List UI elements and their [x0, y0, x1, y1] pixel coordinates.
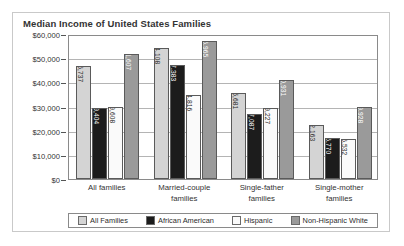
bar[interactable]: $16,532: [341, 139, 356, 179]
y-axis-tick-mark: [61, 180, 66, 181]
x-axis-category-label-line: Single-father: [223, 183, 301, 194]
legend-item[interactable]: Non-Hispanic White: [291, 216, 368, 225]
bar[interactable]: $29,404: [92, 108, 107, 179]
bar-value-label: $22,163: [309, 125, 316, 141]
plot-area: $46,737$29,404$29,608$51,607$54,108$47,3…: [68, 35, 378, 180]
bar-value-label: $29,608: [109, 107, 116, 123]
bar[interactable]: $29,608: [108, 107, 123, 179]
bar-value-label: $27,087: [248, 114, 255, 130]
x-axis-category-label: Single-motherfamilies: [301, 183, 379, 204]
bar[interactable]: $16,770: [325, 138, 340, 179]
y-axis-tick-label: $30,000: [33, 103, 60, 112]
legend-swatch: [291, 216, 300, 225]
bar-value-label: $46,737: [77, 66, 84, 82]
bar[interactable]: $47,383: [170, 65, 185, 180]
chart-card: Median Income of United States Families …: [12, 12, 390, 232]
bar-value-label: $16,770: [325, 138, 332, 154]
y-axis-tick-label: $10,000: [33, 151, 60, 160]
x-axis-category-labels: All familiesMarried-couplefamiliesSingle…: [68, 183, 378, 209]
legend-label: African American: [158, 216, 214, 225]
x-axis-category-label-line: All families: [68, 183, 146, 194]
x-axis-category-label: Single-fatherfamilies: [223, 183, 301, 204]
x-axis-category-label-line: families: [146, 194, 224, 205]
x-axis-category-label-line: Married-couple: [146, 183, 224, 194]
legend-swatch: [146, 216, 155, 225]
bar-group: $22,163$16,770$16,532$29,928: [302, 36, 380, 179]
bar[interactable]: $35,681: [231, 93, 246, 179]
bar[interactable]: $27,087: [247, 114, 262, 179]
y-axis-tick-mark: [61, 108, 66, 109]
bar[interactable]: $34,816: [186, 95, 201, 179]
bar-value-label: $51,607: [125, 54, 132, 70]
legend-label: All Families: [90, 216, 128, 225]
bar-value-label: $16,532: [341, 139, 348, 155]
bar-value-label: $40,931: [280, 80, 287, 96]
bar-group: $46,737$29,404$29,608$51,607: [69, 36, 147, 179]
bar[interactable]: $29,928: [357, 107, 372, 179]
chart-title: Median Income of United States Families: [23, 18, 211, 29]
bar-value-label: $56,965: [202, 41, 209, 57]
bar-value-label: $29,928: [357, 107, 364, 123]
bar[interactable]: $56,965: [202, 41, 217, 179]
bar[interactable]: $29,227: [263, 108, 278, 179]
legend-swatch: [232, 216, 241, 225]
legend-label: Hispanic: [244, 216, 272, 225]
bar[interactable]: $51,607: [124, 54, 139, 179]
bar-group: $54,108$47,383$34,816$56,965: [147, 36, 225, 179]
bar-value-label: $47,383: [170, 65, 177, 81]
y-axis-tick-label: $50,000: [33, 55, 60, 64]
legend-swatch: [78, 216, 87, 225]
y-axis-tick-mark: [61, 83, 66, 84]
chart-legend: All FamiliesAfrican AmericanHispanicNon-…: [68, 213, 378, 228]
bar[interactable]: $54,108: [154, 48, 169, 179]
y-axis-tick-label: $40,000: [33, 79, 60, 88]
y-axis-tick-mark: [61, 59, 66, 60]
bar-value-label: $35,681: [232, 93, 239, 109]
legend-item[interactable]: Hispanic: [232, 216, 272, 225]
y-axis-tick-mark: [61, 132, 66, 133]
x-axis-category-label: All families: [68, 183, 146, 194]
x-axis-category-label-line: families: [301, 194, 379, 205]
y-axis-tick-mark: [61, 156, 66, 157]
bar[interactable]: $40,931: [279, 80, 294, 179]
x-axis-category-label: Married-couplefamilies: [146, 183, 224, 204]
bar[interactable]: $46,737: [76, 66, 91, 179]
bar-value-label: $29,404: [93, 108, 100, 124]
y-axis: $60,000$50,000$40,000$30,000$20,000$10,0…: [13, 35, 66, 180]
y-axis-tick-label: $20,000: [33, 127, 60, 136]
legend-item[interactable]: African American: [146, 216, 214, 225]
bar-value-label: $54,108: [154, 48, 161, 64]
y-axis-tick-label: $0: [52, 176, 60, 185]
legend-item[interactable]: All Families: [78, 216, 128, 225]
bar[interactable]: $22,163: [309, 125, 324, 179]
bar-group: $35,681$27,087$29,227$40,931: [224, 36, 302, 179]
y-axis-tick-label: $60,000: [33, 31, 60, 40]
y-axis-tick-mark: [61, 35, 66, 36]
x-axis-category-label-line: Single-mother: [301, 183, 379, 194]
x-axis-category-label-line: families: [223, 194, 301, 205]
bar-value-label: $29,227: [264, 108, 271, 124]
bar-value-label: $34,816: [186, 95, 193, 111]
legend-label: Non-Hispanic White: [303, 216, 368, 225]
